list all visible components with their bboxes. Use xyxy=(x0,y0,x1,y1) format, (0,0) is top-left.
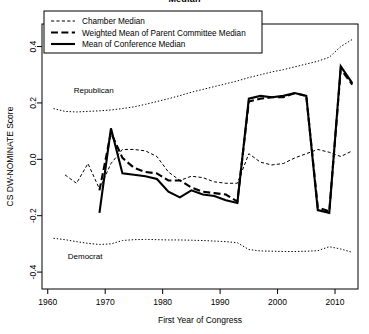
series-layer xyxy=(53,40,352,253)
series-line xyxy=(99,66,352,213)
y-tick-label: 0.0 xyxy=(28,153,38,165)
y-tick-label: 0.4 xyxy=(28,40,38,52)
y-tick-label: -0.4 xyxy=(28,264,38,279)
y-tick-label: 0.2 xyxy=(28,97,38,109)
x-tick-label: 1980 xyxy=(153,297,172,307)
x-tick-label: 1990 xyxy=(211,297,230,307)
chart-annotation: Republican xyxy=(74,86,114,95)
series-line xyxy=(53,238,352,252)
line-chart: -0.4-0.20.00.20.419601970198019902000201… xyxy=(0,0,369,334)
y-axis-label: CS DW-NOMINATE Score xyxy=(5,106,15,206)
legend-label: Mean of Conference Median xyxy=(82,40,186,49)
y-tick-label: -0.2 xyxy=(28,208,38,223)
chart-root: Median -0.4-0.20.00.20.41960197019801990… xyxy=(0,0,369,334)
axes-layer: -0.4-0.20.00.20.419601970198019902000201… xyxy=(5,24,358,325)
chart-legend: Chamber MedianWeighted Mean of Parent Co… xyxy=(44,11,262,53)
chart-annotation: Democrat xyxy=(68,252,103,261)
x-tick-label: 1960 xyxy=(38,297,57,307)
plot-frame xyxy=(42,24,358,289)
x-tick-label: 2000 xyxy=(268,297,287,307)
x-tick-label: 1970 xyxy=(96,297,115,307)
x-axis-label: First Year of Congress xyxy=(158,315,242,325)
series-line xyxy=(99,69,352,211)
x-tick-label: 2010 xyxy=(326,297,345,307)
legend-label: Chamber Median xyxy=(82,17,145,26)
legend-label: Weighted Mean of Parent Committee Median xyxy=(82,29,246,38)
